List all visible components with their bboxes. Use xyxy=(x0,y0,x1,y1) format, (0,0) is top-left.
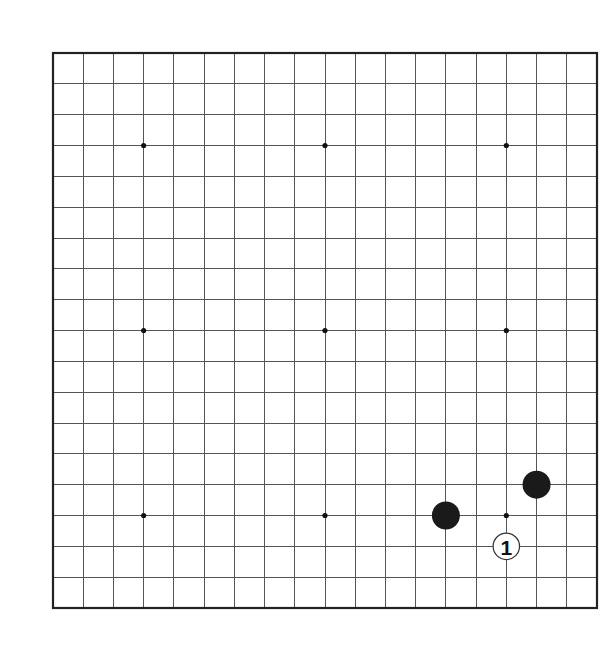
black-stone-icon xyxy=(523,471,551,499)
star-point-icon xyxy=(504,513,509,518)
star-point-icon xyxy=(322,513,327,518)
star-point-icon xyxy=(322,328,327,333)
star-point-icon xyxy=(141,328,146,333)
star-point-icon xyxy=(504,143,509,148)
go-board[interactable]: 1 xyxy=(0,0,613,655)
star-point-icon xyxy=(141,513,146,518)
star-point-icon xyxy=(504,328,509,333)
white-stone: 1 xyxy=(493,533,519,559)
move-number-label: 1 xyxy=(500,536,512,559)
star-point-icon xyxy=(141,143,146,148)
black-stone xyxy=(432,502,460,530)
black-stone xyxy=(523,471,551,499)
star-point-icon xyxy=(322,143,327,148)
black-stone-icon xyxy=(432,502,460,530)
